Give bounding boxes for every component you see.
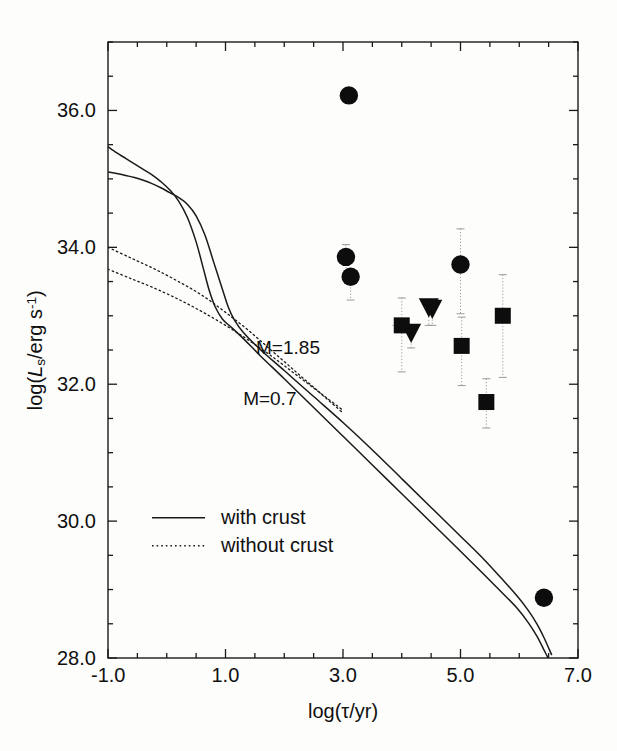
y-axis-title: log(Ls/erg s-1)	[24, 240, 49, 460]
marker-square	[454, 338, 470, 354]
x-tick-label-0: -1.0	[91, 664, 125, 687]
marker-circle	[340, 86, 358, 104]
x-tick-label-1: 1.0	[212, 664, 240, 687]
curve-1	[108, 172, 552, 655]
y-tick-label-1: 30.0	[57, 510, 96, 533]
marker-circle	[451, 255, 469, 273]
legend-sample-lines	[152, 518, 205, 546]
y-axis-title-var: L	[24, 366, 46, 377]
y-tick-label-4: 36.0	[57, 99, 96, 122]
error-bars	[340, 93, 548, 602]
observation-markers	[337, 86, 553, 607]
x-tick-label-3: 5.0	[447, 664, 475, 687]
curve-label-upper: M=1.85	[256, 337, 320, 359]
x-tick-label-4: 7.0	[564, 664, 592, 687]
figure-canvas: -1.0 1.0 3.0 5.0 7.0 28.0 30.0 32.0 34.0…	[0, 0, 617, 751]
marker-square	[495, 308, 511, 324]
curve-2	[108, 247, 343, 413]
y-axis-title-sub: s	[33, 359, 48, 366]
curve-label-lower: M=0.7	[243, 388, 296, 410]
legend-label-with-crust: with crust	[221, 506, 305, 529]
y-axis-title-prefix: log(	[24, 377, 46, 410]
marker-circle	[341, 268, 359, 286]
y-axis-title-mid: /erg s	[24, 309, 46, 359]
axis-ticks	[108, 42, 578, 658]
marker-square	[478, 394, 494, 410]
y-tick-label-0: 28.0	[57, 647, 96, 670]
axes-frame	[108, 42, 578, 658]
marker-circle	[337, 248, 355, 266]
y-tick-label-2: 32.0	[57, 373, 96, 396]
y-axis-title-sup: -1	[24, 297, 39, 309]
y-tick-label-3: 34.0	[57, 236, 96, 259]
error-bar	[497, 275, 509, 378]
legend-label-without-crust: without crust	[221, 534, 333, 557]
x-axis-title: log(τ/yr)	[308, 700, 378, 723]
y-axis-title-suffix: )	[24, 290, 46, 297]
x-tick-label-2: 3.0	[329, 664, 357, 687]
marker-circle	[535, 589, 553, 607]
